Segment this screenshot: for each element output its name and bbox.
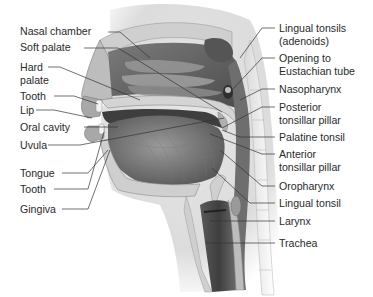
label-tooth-upper: Tooth [20,90,46,102]
label-tooth-lower: Tooth [20,183,46,195]
lower-tooth [99,124,104,134]
label-nasopharynx: Nasopharynx [279,83,341,95]
label-uvula: Uvula [20,139,47,151]
anatomy-diagram: Nasal chamber Soft palate Hard palate To… [0,0,373,297]
label-posterior-tonsillar-pillar-line2: tonsillar pillar [279,114,341,126]
label-oral-cavity: Oral cavity [20,121,70,133]
label-hard-palate-line2: palate [20,74,49,86]
label-palatine-tonsil: Palatine tonsil [279,131,345,143]
label-anterior-tonsillar-pillar-line1: Anterior [279,148,316,160]
upper-tooth [96,100,102,112]
label-larynx: Larynx [279,215,311,227]
label-lingual-tonsils-line2: (adenoids) [279,35,329,47]
label-trachea: Trachea [279,237,317,249]
label-opening-eustachian-line1: Opening to [279,52,331,64]
label-anterior-tonsillar-pillar-line2: tonsillar pillar [279,161,341,173]
label-lingual-tonsils-line1: Lingual tonsils [279,22,346,34]
label-oropharynx: Oropharynx [279,180,334,192]
label-gingiva: Gingiva [20,203,56,215]
label-soft-palate: Soft palate [20,41,71,53]
label-lingual-tonsil: Lingual tonsil [279,197,341,209]
label-hard-palate-line1: Hard [20,61,43,73]
label-tongue: Tongue [20,167,55,179]
label-opening-eustachian-line2: Eustachian tube [279,65,355,77]
label-lip: Lip [20,104,34,116]
label-nasal-chamber: Nasal chamber [20,25,91,37]
label-posterior-tonsillar-pillar-line1: Posterior [279,101,321,113]
